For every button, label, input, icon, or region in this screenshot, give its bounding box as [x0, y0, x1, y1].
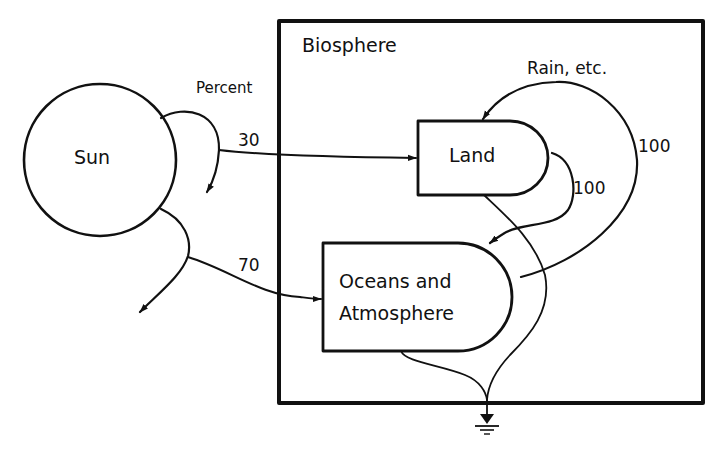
flow-30-label: 30: [238, 132, 260, 149]
flow-sun-to-land: [219, 150, 416, 158]
flow-oceans-to-land: [483, 82, 637, 277]
flow-land-to-oceans: [490, 153, 573, 243]
energy-flow-diagram: [0, 0, 727, 455]
oceans-label-line1: Oceans and: [339, 272, 451, 291]
percent-label: Percent: [196, 81, 252, 96]
oceans-label-line2: Atmosphere: [339, 304, 454, 323]
biosphere-label: Biosphere: [302, 36, 397, 55]
sun-lower-loop: [140, 209, 189, 312]
oceans-box: [323, 243, 512, 351]
biosphere-boundary: [279, 21, 703, 403]
sun-upper-loop: [161, 112, 219, 192]
sun-label: Sun: [74, 148, 110, 167]
ground-icon: [475, 414, 499, 434]
flow-100-land-label: 100: [573, 180, 605, 197]
rain-label: Rain, etc.: [527, 60, 607, 77]
oceans-loss-path: [401, 351, 487, 400]
land-label: Land: [449, 146, 495, 165]
flow-100-rain-label: 100: [638, 138, 670, 155]
land-loss-path: [484, 195, 546, 400]
flow-70-label: 70: [238, 257, 260, 274]
